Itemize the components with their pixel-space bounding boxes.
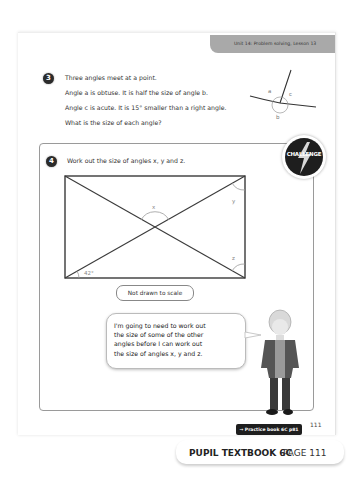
speech-bubble: I'm going to need to work out the size o…: [106, 313, 246, 369]
question-4-prompt: Work out the size of angles x, y and z.: [67, 157, 185, 164]
angle-label-b: b: [276, 114, 280, 120]
question-3-line-1: Three angles meet at a point.: [65, 74, 157, 81]
unit-header-tab: Unit 14: Problem solving, Lesson 13: [210, 35, 335, 53]
challenge-badge-inner: CHALLENGE: [285, 138, 323, 176]
speech-line-4: the size of angles x, y and z.: [114, 349, 245, 358]
angle-label-y: y: [232, 198, 235, 204]
challenge-badge: CHALLENGE: [282, 135, 326, 179]
angle-label-c: c: [289, 91, 292, 97]
question-3-number: 3: [43, 73, 54, 84]
rectangle-diagonals-diagram: [65, 176, 245, 278]
question-4-number: 4: [46, 156, 57, 167]
page-label: PAGE 111: [283, 448, 327, 458]
angle-label-z: z: [232, 255, 235, 261]
angle-label-42: 42°: [84, 270, 94, 276]
challenge-label: CHALLENGE: [285, 151, 323, 157]
question-3-line-3: Angle c is acute. It is 15° smaller than…: [65, 104, 226, 111]
angle-label-x: x: [152, 204, 155, 210]
question-3-line-4: What is the size of each angle?: [65, 119, 162, 126]
speech-line-1: I'm going to need to work out: [114, 321, 245, 330]
not-to-scale-note: Not drawn to scale: [116, 285, 194, 301]
question-3-line-2: Angle a is obtuse. It is half the size o…: [65, 89, 208, 96]
lightning-bolt-icon: [294, 142, 314, 174]
angle-label-a: a: [268, 88, 271, 94]
book-title: PUPIL TEXTBOOK 6C: [189, 448, 292, 458]
speech-line-3: angles before I can work out: [114, 339, 245, 348]
speech-line-2: the size of some of the other: [114, 330, 245, 339]
practice-book-link[interactable]: → Practice book 6C p81: [236, 424, 302, 435]
page-number: 111: [310, 421, 321, 428]
boy-character-illustration: [253, 308, 308, 418]
